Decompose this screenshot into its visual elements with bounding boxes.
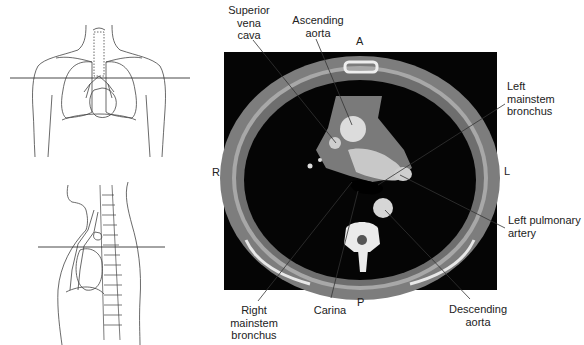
coronal-scout-diagram xyxy=(33,25,166,157)
label-superior-vena-cava: Superior vena cava xyxy=(222,4,276,42)
label-line: aorta xyxy=(286,27,350,40)
label-line: mainstem xyxy=(507,93,567,106)
label-left-pulmonary-artery: Left pulmonary artery xyxy=(508,214,584,239)
figure-canvas xyxy=(0,0,584,345)
sagittal-scout-diagram xyxy=(58,182,141,345)
label-descending-aorta: Descending aorta xyxy=(445,303,511,328)
label-line: bronchus xyxy=(507,105,567,118)
label-carina: Carina xyxy=(300,304,360,317)
label-line: Carina xyxy=(300,304,360,317)
label-line: mainstem xyxy=(224,317,284,330)
label-line: vena xyxy=(222,17,276,30)
label-line: Left xyxy=(507,80,567,93)
label-line: bronchus xyxy=(224,329,284,342)
ct-axial-image xyxy=(220,52,500,300)
label-line: Ascending xyxy=(286,14,350,27)
label-ascending-aorta: Ascending aorta xyxy=(286,14,350,39)
label-line: Left pulmonary xyxy=(508,214,584,227)
label-line: artery xyxy=(508,227,584,240)
orientation-left: L xyxy=(504,165,510,177)
label-left-mainstem-bronchus: Left mainstem bronchus xyxy=(507,80,567,118)
label-line: Superior xyxy=(222,4,276,17)
label-line: Right xyxy=(224,304,284,317)
orientation-anterior: A xyxy=(356,35,363,47)
orientation-right: R xyxy=(212,166,220,178)
label-line: cava xyxy=(222,29,276,42)
label-line: aorta xyxy=(445,316,511,329)
label-right-mainstem-bronchus: Right mainstem bronchus xyxy=(224,304,284,342)
label-line: Descending xyxy=(445,303,511,316)
